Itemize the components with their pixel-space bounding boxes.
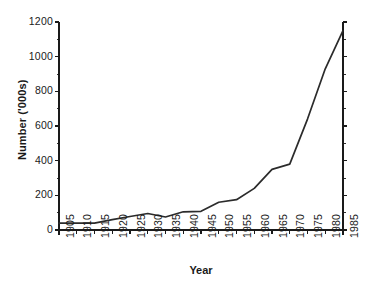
x-axis-tick-label: 1985	[348, 214, 360, 238]
x-axis-tick-label: 1975	[312, 214, 324, 238]
y-axis-tick-label: 800	[35, 84, 53, 96]
x-axis-tick-label: 1960	[259, 214, 271, 238]
x-axis-tick-label: 1915	[99, 214, 111, 238]
line-chart: 020040060080010001200 190519101915192019…	[0, 0, 366, 285]
x-axis-tick-label: 1970	[294, 214, 306, 238]
y-axis-tick-label: 200	[35, 188, 53, 200]
x-axis-tick-label: 1955	[241, 214, 253, 238]
x-axis-tick-label: 1925	[135, 214, 147, 238]
x-axis-tick-label: 1940	[188, 214, 200, 238]
y-axis-tick-label: 1200	[29, 15, 53, 27]
chart-axes	[59, 22, 343, 230]
x-axis-tick-label: 1950	[223, 214, 235, 238]
chart-plot-svg	[0, 0, 366, 285]
x-axis-tick-label: 1935	[170, 214, 182, 238]
x-axis-tick-label: 1945	[206, 214, 218, 238]
y-axis-tick-label: 0	[47, 223, 53, 235]
x-axis-tick-label: 1920	[117, 214, 129, 238]
y-axis-tick-label: 600	[35, 119, 53, 131]
y-axis-title: Number ('000s)	[16, 80, 28, 160]
x-axis-tick-label: 1910	[81, 214, 93, 238]
y-axis-tick-label: 400	[35, 154, 53, 166]
x-axis-title: Year	[0, 264, 366, 276]
x-axis-tick-label: 1965	[277, 214, 289, 238]
x-axis-tick-label: 1905	[64, 214, 76, 238]
x-axis-tick-label: 1930	[152, 214, 164, 238]
x-axis-tick-label: 1980	[330, 214, 342, 238]
data-series-line	[59, 31, 343, 223]
y-axis-tick-label: 1000	[29, 50, 53, 62]
